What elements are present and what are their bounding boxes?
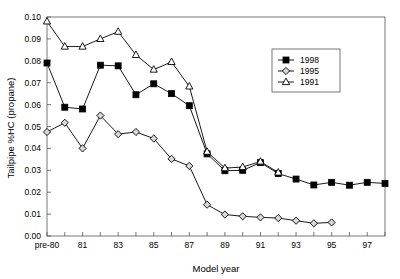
marker-filled-square [186, 103, 192, 109]
x-tick-label: pre-80 [35, 240, 60, 250]
x-tick-label: 85 [149, 240, 159, 250]
y-tick-label: 0.04 [24, 143, 41, 153]
x-tick-label: 91 [256, 240, 266, 250]
x-tick-label: 83 [113, 240, 123, 250]
x-tick-label: 89 [220, 240, 230, 250]
y-tick-label: 0.01 [24, 209, 41, 219]
y-tick-label: 0.05 [24, 122, 41, 132]
marker-filled-square [283, 57, 289, 63]
y-tick-label: 0.03 [24, 165, 41, 175]
marker-filled-square [115, 63, 121, 69]
x-axis-title: Model year [193, 263, 240, 274]
marker-filled-square [346, 182, 352, 188]
x-tick-label: 87 [185, 240, 195, 250]
marker-filled-square [169, 91, 175, 97]
x-tick-label: 81 [78, 240, 88, 250]
y-tick-label: 0.07 [24, 78, 41, 88]
marker-filled-square [151, 81, 157, 87]
marker-filled-square [364, 179, 370, 185]
y-tick-label: 0.06 [24, 100, 41, 110]
y-tick-label: 0.08 [24, 56, 41, 66]
y-axis-title: Tailpipe %HC (propane) [5, 78, 16, 179]
y-tick-label: 0.09 [24, 34, 41, 44]
marker-filled-square [382, 180, 388, 186]
marker-filled-square [62, 104, 68, 110]
marker-filled-square [293, 176, 299, 182]
chart-container: 0.000.010.020.030.040.050.060.070.080.09… [0, 0, 400, 279]
legend-label-1991: 1991 [300, 77, 319, 87]
x-tick-label: 95 [327, 240, 337, 250]
marker-filled-square [97, 62, 103, 68]
marker-filled-square [133, 92, 139, 98]
line-chart: 0.000.010.020.030.040.050.060.070.080.09… [0, 0, 400, 279]
marker-filled-square [311, 182, 317, 188]
y-tick-label: 0.02 [24, 187, 41, 197]
marker-filled-square [80, 106, 86, 112]
marker-filled-square [329, 179, 335, 185]
legend-label-1998: 1998 [300, 55, 319, 65]
marker-filled-square [44, 60, 50, 66]
x-tick-label: 93 [291, 240, 301, 250]
y-tick-label: 0.10 [24, 12, 41, 22]
chart-legend: 199819951991 [272, 49, 340, 92]
x-tick-label: 97 [362, 240, 372, 250]
legend-label-1995: 1995 [300, 66, 319, 76]
